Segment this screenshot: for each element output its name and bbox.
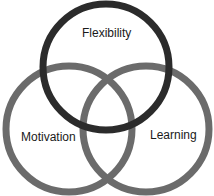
venn-diagram: Flexibility Motivation Learning: [0, 0, 214, 196]
motivation-label: Motivation: [21, 131, 76, 143]
flexibility-label: Flexibility: [82, 27, 131, 39]
learning-label: Learning: [150, 129, 197, 141]
